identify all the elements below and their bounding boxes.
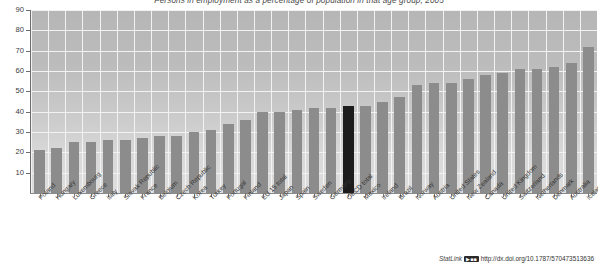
- y-axis-tick-label: 70: [0, 47, 24, 55]
- statlink-url[interactable]: http://dx.doi.org/10.1787/570473513636: [481, 255, 594, 262]
- bars-layer: [31, 10, 597, 193]
- bar-slovak-republic: [120, 140, 131, 193]
- bar-portugal: [223, 124, 234, 193]
- statlink-footer[interactable]: StatLink▶■■http://dx.doi.org/10.1787/570…: [0, 255, 598, 262]
- bar-spain: [292, 110, 303, 193]
- bar-norway: [412, 85, 423, 193]
- y-axis-tick-label: 50: [0, 87, 24, 95]
- bar-poland: [34, 150, 45, 193]
- statlink-badge-icon: ▶■■: [464, 256, 479, 262]
- y-axis-tick-label: 20: [0, 148, 24, 156]
- bar-ireland: [377, 102, 388, 194]
- bar-united-states: [446, 83, 457, 193]
- y-axis-tick-label: 40: [0, 108, 24, 116]
- y-axis-tick-label: 10: [0, 169, 24, 177]
- chart-title: Persons in employment as a percentage of…: [0, 0, 598, 5]
- y-axis-tick-label: 80: [0, 26, 24, 34]
- bar-iceland: [583, 47, 594, 193]
- y-axis-tick-label: 90: [0, 6, 24, 14]
- bar-turkey: [206, 130, 217, 193]
- x-axis-labels: PolandHungaryLuxembourgGreeceItalySlovak…: [31, 196, 597, 254]
- y-axis-tick-label: 30: [0, 128, 24, 136]
- bar-australia: [566, 63, 577, 193]
- bar-sweden: [309, 108, 320, 193]
- statlink-label: StatLink: [439, 255, 462, 262]
- bar-brazil: [394, 97, 405, 193]
- bar-austria: [429, 83, 440, 193]
- chart-container: Persons in employment as a percentage of…: [0, 0, 598, 266]
- y-axis-tick-label: 60: [0, 67, 24, 75]
- bar-united-kingdom: [497, 73, 508, 193]
